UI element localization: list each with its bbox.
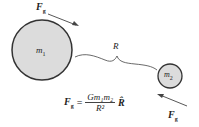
equation-lhs: Fg — [64, 96, 74, 109]
equals-sign: = — [77, 97, 83, 108]
equation-fraction: Gm₁m₂ R² — [85, 92, 115, 113]
unit-vector: R̂ — [118, 97, 125, 108]
force2-label: Fg — [168, 110, 178, 122]
distance-brace — [75, 55, 157, 70]
mass1-label: m1 — [36, 46, 46, 57]
force2-arrow — [160, 95, 187, 106]
force1-label: Fg — [36, 2, 46, 14]
mass2-label: m2 — [164, 71, 173, 81]
distance-label: R — [113, 42, 119, 51]
gravity-equation: Fg = Gm₁m₂ R² R̂ — [64, 92, 125, 113]
